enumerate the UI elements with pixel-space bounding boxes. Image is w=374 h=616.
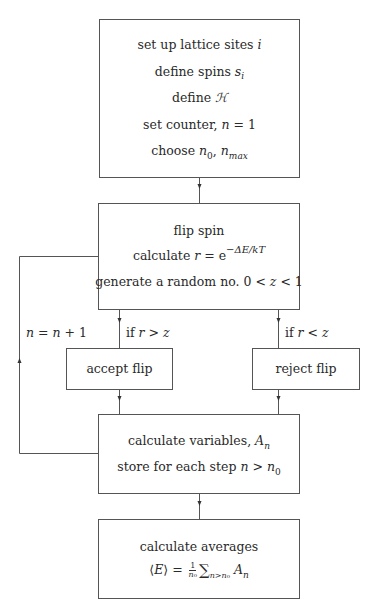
calc-variables-box: calculate variables, An store for each s… — [98, 414, 300, 494]
calc-line-store: store for each step n > n0 — [117, 461, 280, 474]
arrow-down-icon — [118, 396, 122, 401]
init-line-spins: define spins si — [155, 66, 244, 79]
flip-line-title: flip spin — [174, 225, 225, 238]
arrow-up-icon — [18, 358, 22, 363]
arrow-down-icon — [277, 318, 281, 323]
arrow-down-icon — [118, 318, 122, 323]
loop-increment-label: n = n + 1 — [26, 327, 87, 340]
averages-box: calculate averages ⟨E⟩ = 1n₀∑n>n₀ An — [98, 519, 300, 599]
arrow-down-icon — [198, 184, 202, 189]
arrow-down-icon — [277, 396, 281, 401]
accept-flip-label: accept flip — [86, 363, 152, 376]
averages-formula: ⟨E⟩ = 1n₀∑n>n₀ An — [149, 562, 248, 579]
flip-line-random: generate a random no. 0 < z < 1 — [95, 276, 303, 289]
calc-line-variables: calculate variables, An — [128, 435, 270, 448]
averages-title: calculate averages — [140, 541, 259, 554]
accept-flip-box: accept flip — [66, 348, 173, 390]
init-line-counter: set counter, n = 1 — [143, 119, 256, 132]
flip-box: flip spin calculate r = e−ΔE/kT generate… — [98, 203, 300, 310]
reject-flip-label: reject flip — [276, 363, 337, 376]
reject-condition-label: if r < z — [285, 327, 329, 340]
reject-flip-box: reject flip — [252, 348, 360, 390]
init-box: set up lattice sites i define spins si d… — [99, 19, 300, 178]
init-line-lattice: set up lattice sites i — [138, 39, 262, 52]
init-line-hamiltonian: define ℋ — [172, 92, 227, 105]
init-line-choose: choose n0, nmax — [151, 145, 248, 158]
flip-line-ratio: calculate r = e−ΔE/kT — [133, 250, 265, 263]
arrow-down-icon — [198, 501, 202, 506]
accept-condition-label: if r > z — [126, 327, 170, 340]
